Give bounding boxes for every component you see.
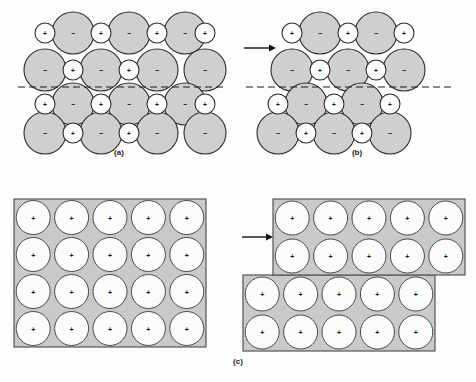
metal-ion-core-sign: +	[31, 289, 35, 296]
arrow-head	[266, 233, 273, 240]
metal-ion-core-sign: +	[260, 329, 264, 336]
metal-ion-core-sign: +	[70, 289, 74, 296]
arrow-head	[269, 44, 276, 51]
metal-block-left-undeformed: ++++++++++++++++++++	[14, 199, 206, 347]
cation-sign: +	[71, 130, 75, 137]
cation-sign: +	[346, 30, 350, 37]
metal-ion-core-sign: +	[108, 252, 112, 259]
cation-sign: +	[374, 67, 378, 74]
metal-ion-core-sign: +	[108, 326, 112, 333]
anion-sign: −	[318, 30, 322, 37]
metal-ion-core-sign: +	[185, 289, 189, 296]
anion-sign: −	[388, 130, 392, 137]
metal-ion-core-sign: +	[444, 253, 448, 260]
metal-ion-core-sign: +	[70, 252, 74, 259]
cation-sign: +	[332, 101, 336, 108]
cation-sign: +	[71, 67, 75, 74]
cation-sign: +	[43, 30, 47, 37]
cation-sign: +	[127, 130, 131, 137]
metal-ion-core-sign: +	[108, 289, 112, 296]
anion-sign: −	[203, 130, 207, 137]
metal-ion-core-sign: +	[185, 326, 189, 333]
metal-ion-core-sign: +	[405, 253, 409, 260]
anion-sign: −	[203, 67, 207, 74]
cation-sign: +	[290, 30, 294, 37]
anion-sign: −	[402, 67, 406, 74]
anion-sign: −	[304, 101, 308, 108]
cation-sign: +	[304, 130, 308, 137]
anion-sign: −	[43, 130, 47, 137]
cation-sign: +	[43, 101, 47, 108]
panel-a-ionic-undeformed: −−−−−−−−−−−−−− ++++++++++++ (a)	[0, 0, 238, 170]
metal-ion-core-sign: +	[329, 253, 333, 260]
cation-sign: +	[318, 67, 322, 74]
metal-ion-core-sign: +	[290, 253, 294, 260]
anion-sign: −	[276, 130, 280, 137]
cation-sign: +	[155, 30, 159, 37]
metal-ion-core-sign: +	[31, 252, 35, 259]
cation-sign: +	[99, 30, 103, 37]
metal-ion-core-sign: +	[367, 215, 371, 222]
panel-a-lattice-svg: −−−−−−−−−−−−−− ++++++++++++	[0, 0, 238, 170]
bonding-deformation-figure: −−−−−−−−−−−−−− ++++++++++++ (a) −−−−− ++…	[0, 0, 476, 382]
metal-ion-core-sign: +	[329, 215, 333, 222]
metal-ion-core-sign: +	[31, 215, 35, 222]
anion-sign: −	[127, 101, 131, 108]
metal-ion-core-sign: +	[185, 215, 189, 222]
metal-ion-core-sign: +	[444, 215, 448, 222]
metal-ion-core-sign: +	[375, 291, 379, 298]
metal-ion-core-sign: +	[70, 326, 74, 333]
metal-ion-core-sign: +	[146, 326, 150, 333]
anion-sign: −	[155, 67, 159, 74]
anion-sign: −	[374, 30, 378, 37]
metal-ion-core-sign: +	[146, 252, 150, 259]
metal-ion-core-sign: +	[185, 252, 189, 259]
panel-b-ionic-slipped: −−−−− +++++ −−−−− +++++ (b)	[238, 0, 476, 170]
anion-sign: −	[183, 101, 187, 108]
anion-sign: −	[127, 30, 131, 37]
panel-label-b: (b)	[337, 148, 377, 157]
cation-sign: +	[276, 101, 280, 108]
metal-ion-core-sign: +	[299, 329, 303, 336]
panel-b-lattice-svg: −−−−− +++++ −−−−− +++++	[238, 0, 476, 170]
panel-c-metal-svg: ++++++++++++++++++++ ++++++++++ ++++++++…	[0, 185, 476, 382]
anion-sign: −	[290, 67, 294, 74]
cation-sign: +	[99, 101, 103, 108]
anion-sign: −	[71, 101, 75, 108]
shear-arrow-icon	[242, 233, 273, 240]
cation-sign: +	[203, 30, 207, 37]
anion-sign: −	[346, 67, 350, 74]
anion-sign: −	[99, 67, 103, 74]
cation-sign: +	[388, 101, 392, 108]
cation-sign: +	[127, 67, 131, 74]
metal-ion-core-sign: +	[405, 215, 409, 222]
metal-ion-core-sign: +	[70, 215, 74, 222]
anion-sign: −	[332, 130, 336, 137]
cation-sign: +	[203, 101, 207, 108]
metal-ion-core-sign: +	[146, 215, 150, 222]
panel-label-c: (c)	[218, 357, 258, 366]
shear-arrow-icon	[244, 44, 276, 51]
anion-sign: −	[183, 30, 187, 37]
anion-sign: −	[155, 130, 159, 137]
metal-ion-core-sign: +	[414, 329, 418, 336]
cation-sign: +	[360, 130, 364, 137]
panel-label-a: (a)	[99, 148, 139, 157]
metal-ion-core-sign: +	[108, 215, 112, 222]
metal-ion-core-sign: +	[414, 291, 418, 298]
metal-ion-core-sign: +	[146, 289, 150, 296]
metal-ion-core-sign: +	[375, 329, 379, 336]
cation-sign: +	[402, 30, 406, 37]
metal-ion-core-sign: +	[367, 253, 371, 260]
metal-ion-core-sign: +	[299, 291, 303, 298]
cation-sign: +	[155, 101, 159, 108]
anion-sign: −	[71, 30, 75, 37]
metal-ion-core-sign: +	[337, 291, 341, 298]
anion-sign: −	[99, 130, 103, 137]
panel-c-metallic: ++++++++++++++++++++ ++++++++++ ++++++++…	[0, 185, 476, 382]
metal-ion-core-sign: +	[337, 329, 341, 336]
metal-block-right-upper: ++++++++++	[273, 199, 465, 275]
metal-ion-core-sign: +	[260, 291, 264, 298]
anion-sign: −	[43, 67, 47, 74]
metal-ion-core-sign: +	[290, 215, 294, 222]
